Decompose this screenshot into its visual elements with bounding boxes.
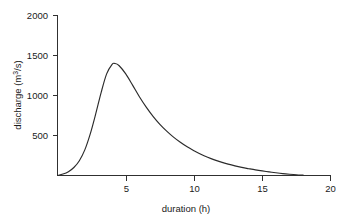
- hydrograph-chart: 2000 1500 1000 500 5 10 15 20 duration (…: [0, 0, 348, 220]
- svg-text:discharge (m3/s): discharge (m3/s): [12, 60, 23, 129]
- y-tick-label-1000: 1000: [27, 90, 48, 101]
- y-tick-label-1500: 1500: [27, 50, 48, 61]
- y-axis-title-base: discharge (m: [12, 75, 23, 130]
- y-axis-title-tail: /s): [12, 60, 23, 71]
- chart-figure: 2000 1500 1000 500 5 10 15 20 duration (…: [0, 0, 348, 220]
- x-axis-title: duration (h): [162, 203, 211, 214]
- y-tick-label-500: 500: [32, 130, 48, 141]
- x-tick-label-10: 10: [189, 183, 200, 194]
- chart-background: [0, 0, 348, 220]
- y-axis-title: discharge (m3/s): [12, 60, 23, 129]
- x-tick-label-15: 15: [257, 183, 268, 194]
- y-tick-label-2000: 2000: [27, 10, 48, 21]
- x-tick-label-20: 20: [325, 183, 336, 194]
- x-tick-label-5: 5: [124, 183, 129, 194]
